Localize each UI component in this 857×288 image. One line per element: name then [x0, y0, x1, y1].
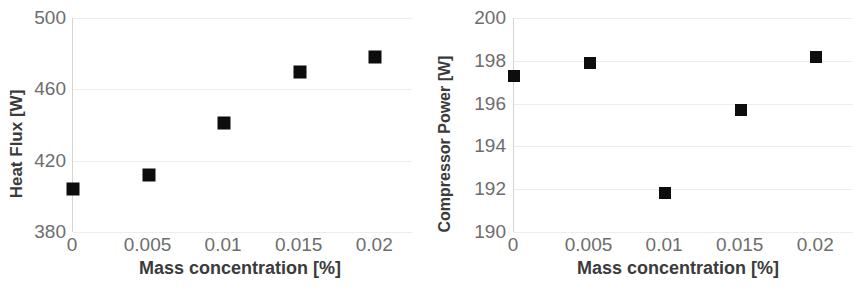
- data-point-marker: [735, 104, 747, 116]
- x-axis-tick-labels-left: 00.0050.010.0150.02: [72, 234, 412, 258]
- chart-panel-heat-flux: Heat Flux [W] 500460420380 00.0050.010.0…: [0, 0, 428, 288]
- gridline: [73, 161, 412, 162]
- y-axis-tick-labels-right: 200198196194192190: [454, 0, 506, 288]
- x-axis-tick-label: 0.01: [646, 234, 683, 256]
- x-axis-title-left: Mass concentration [%]: [60, 258, 420, 279]
- x-axis-title-right: Mass concentration [%]: [498, 258, 857, 279]
- gridline: [514, 189, 853, 190]
- gridline: [514, 104, 853, 105]
- chart-panel-compressor-power: Compressor Power [W] 200198196194192190 …: [428, 0, 857, 288]
- x-axis-tick-labels-right: 00.0050.010.0150.02: [513, 234, 853, 258]
- x-axis-tick-label: 0.02: [797, 234, 834, 256]
- x-axis-tick-label: 0: [508, 234, 519, 256]
- data-point-marker: [369, 51, 382, 64]
- x-axis-tick-label: 0.02: [356, 234, 393, 256]
- gridline: [514, 18, 853, 19]
- data-point-marker: [67, 183, 80, 196]
- y-axis-tick-label: 192: [474, 178, 506, 200]
- gridline: [73, 232, 412, 233]
- y-axis-tick-label: 420: [34, 150, 66, 172]
- y-axis-tick-label: 200: [474, 7, 506, 29]
- y-axis-tick-label: 380: [34, 221, 66, 243]
- y-axis-tick-label: 194: [474, 135, 506, 157]
- plot-area-right: [513, 18, 853, 232]
- data-point-marker: [659, 187, 671, 199]
- x-axis-tick-label: 0.015: [275, 234, 323, 256]
- data-point-marker: [810, 51, 822, 63]
- x-axis-tick-label: 0.015: [716, 234, 764, 256]
- gridline: [514, 146, 853, 147]
- figure-two-scatter-panels: Heat Flux [W] 500460420380 00.0050.010.0…: [0, 0, 857, 288]
- x-axis-tick-label: 0: [67, 234, 78, 256]
- data-point-marker: [142, 168, 155, 181]
- data-point-marker: [293, 65, 306, 78]
- plot-area-left: [72, 18, 412, 232]
- x-axis-tick-label: 0.01: [205, 234, 242, 256]
- gridline: [73, 18, 412, 19]
- gridline: [514, 232, 853, 233]
- data-point-marker: [508, 70, 520, 82]
- y-axis-tick-label: 460: [34, 78, 66, 100]
- data-point-marker: [584, 57, 596, 69]
- y-axis-tick-label: 198: [474, 50, 506, 72]
- x-axis-tick-label: 0.005: [124, 234, 172, 256]
- data-point-marker: [218, 117, 231, 130]
- gridline: [514, 61, 853, 62]
- y-axis-tick-label: 500: [34, 7, 66, 29]
- x-axis-tick-label: 0.005: [565, 234, 613, 256]
- y-axis-tick-label: 190: [474, 221, 506, 243]
- gridline: [73, 89, 412, 90]
- y-axis-tick-label: 196: [474, 93, 506, 115]
- y-axis-tick-labels-left: 500460420380: [14, 0, 66, 288]
